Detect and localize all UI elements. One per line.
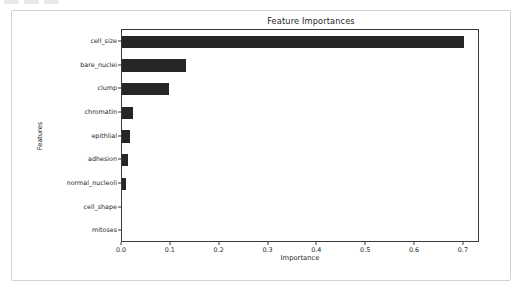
plot-area	[121, 29, 479, 242]
toolbar-chip	[24, 0, 39, 4]
x-tickmark	[267, 242, 268, 245]
y-tick-label-cell_size: cell_size	[90, 37, 117, 45]
x-tickmark	[218, 242, 219, 245]
x-axis-label: Importance	[121, 254, 479, 262]
x-tick-label-0.1: 0.1	[165, 246, 175, 254]
bar-clump	[122, 83, 478, 95]
x-tickmark	[169, 242, 170, 245]
bar-fill	[122, 83, 169, 95]
x-tickmark	[414, 242, 415, 245]
bars-layer	[122, 30, 478, 241]
y-tick-label-cell_shape: cell_shape	[84, 203, 117, 211]
y-tick-label-epithlial: epithlial	[91, 132, 117, 140]
x-tick-label-0.6: 0.6	[409, 246, 419, 254]
figure-card: Feature Importances Features cell_sizeba…	[11, 10, 511, 281]
figure-canvas: Feature Importances Features cell_sizeba…	[12, 11, 510, 280]
y-tick-label-chromatin: chromatin	[85, 108, 117, 116]
bar-bare_nuclei	[122, 59, 478, 71]
bar-cell_shape	[122, 201, 478, 213]
bar-fill	[122, 178, 126, 190]
x-tickmark	[316, 242, 317, 245]
bar-fill	[122, 107, 133, 119]
y-tick-label-clump: clump	[97, 84, 117, 92]
y-axis-tick-labels: cell_sizebare_nucleiclumpchromatinepithl…	[12, 29, 121, 242]
x-tick-label-0.0: 0.0	[116, 246, 126, 254]
bar-epithlial	[122, 130, 478, 142]
bar-chromatin	[122, 107, 478, 119]
bar-normal_nucleoli	[122, 178, 478, 190]
x-tick-label-0.5: 0.5	[360, 246, 370, 254]
bar-fill	[122, 36, 464, 48]
x-tickmark	[365, 242, 366, 245]
x-tickmark	[121, 242, 122, 245]
bar-cell_size	[122, 36, 478, 48]
x-tick-label-0.4: 0.4	[311, 246, 321, 254]
bar-fill	[122, 130, 130, 142]
x-tick-label-0.2: 0.2	[214, 246, 224, 254]
y-tick-label-adhesion: adhesion	[88, 155, 117, 163]
bar-fill	[122, 154, 128, 166]
bar-fill	[122, 59, 186, 71]
x-tick-label-0.7: 0.7	[458, 246, 468, 254]
y-tick-label-normal_nucleoli: normal_nucleoli	[67, 179, 117, 187]
bar-adhesion	[122, 154, 478, 166]
y-tick-label-mitoses: mitoses	[92, 226, 117, 234]
x-tickmark	[462, 242, 463, 245]
bar-mitoses	[122, 225, 478, 237]
toolbar-chip	[4, 0, 19, 4]
x-tick-label-0.3: 0.3	[262, 246, 272, 254]
toolbar-remnant	[0, 0, 120, 7]
toolbar-chip	[44, 0, 59, 4]
y-tick-label-bare_nuclei: bare_nuclei	[80, 61, 117, 69]
chart-title: Feature Importances	[121, 16, 501, 26]
